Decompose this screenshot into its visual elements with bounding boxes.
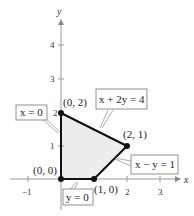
x-tick-2: 2 [125, 187, 130, 197]
vertex-1-0 [91, 176, 97, 182]
callout-x-plus-2y-eq-4: x + 2y = 4 [96, 89, 147, 128]
equation-y-eq-0: y = 0 [66, 191, 89, 203]
y-axis-label: y [56, 6, 62, 17]
y-tick-2: 2 [53, 108, 58, 118]
x-tick-neg1: −1 [22, 187, 32, 197]
y-tick-1: 1 [50, 141, 55, 151]
feasible-region [61, 113, 127, 179]
vertex-label-1-0: (1, 0) [94, 183, 118, 196]
x-tick-3: 3 [158, 187, 163, 197]
equation-x-minus-y-eq-1: x − y = 1 [135, 158, 175, 170]
vertex-0-2 [58, 110, 64, 116]
feasible-region-diagram: x y −1 2 3 1 2 3 4 (0, 2) (0, 0) (2, 1) … [0, 0, 194, 216]
vertex-2-1 [124, 143, 130, 149]
y-tick-3: 3 [50, 74, 55, 84]
vertex-0-0 [58, 176, 64, 182]
vertex-label-2-1: (2, 1) [123, 128, 147, 141]
vertex-label-0-0: (0, 0) [33, 164, 57, 177]
equation-x-plus-2y-eq-4: x + 2y = 4 [99, 93, 145, 105]
callout-x-minus-y-eq-1: x − y = 1 [115, 155, 178, 174]
equation-x-eq-0: x = 0 [20, 106, 43, 118]
x-axis-label: x [183, 174, 189, 185]
callout-y-eq-0: y = 0 [63, 182, 93, 205]
y-tick-4: 4 [50, 40, 55, 50]
vertex-label-0-2: (0, 2) [63, 96, 87, 109]
